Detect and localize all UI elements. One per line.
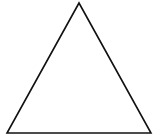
diagram-canvas	[0, 0, 157, 140]
